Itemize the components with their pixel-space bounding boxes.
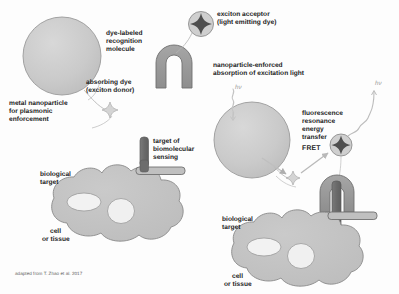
right-metal-nanoparticle xyxy=(214,102,290,178)
label-target-of-sensing: target of biomolecular sensing xyxy=(153,138,205,162)
left-exciton-acceptor-icon xyxy=(189,12,214,37)
right-cell-vacuole xyxy=(247,238,281,256)
figure-credit: adapted from T. Zhao et al. 2017 xyxy=(15,271,155,276)
label-fret-acronym: FRET xyxy=(302,145,321,153)
label-recognition-molecule: dye-labeled recognition molecule xyxy=(106,30,164,54)
label-biological-target-left: biological target xyxy=(40,171,90,187)
left-target-rod-embedded xyxy=(140,160,149,172)
right-cell-nucleus xyxy=(288,244,315,269)
label-fret-expanded: fluorescence resonance energy transfer xyxy=(302,110,350,142)
right-target-slot xyxy=(328,212,377,220)
leader-line-absorbing-dye xyxy=(92,116,112,128)
label-cell-or-tissue-left: cell or tissue xyxy=(42,228,94,244)
label-absorbing-dye: absorbing dye (exciton donor) xyxy=(86,79,156,95)
right-absorbing-dye-star-icon xyxy=(286,171,300,185)
label-biological-target-right: biological target xyxy=(222,216,272,232)
left-cell-nucleus xyxy=(108,199,135,224)
label-absorption-excitation: nanoparticle-enforced absorption of exci… xyxy=(213,62,319,78)
left-cell-vacuole xyxy=(67,193,101,211)
emission-photon-squiggle-icon xyxy=(348,91,377,137)
label-excitation-photon: hν xyxy=(235,84,242,92)
label-exciton-acceptor: exciton acceptor (light emitting dye) xyxy=(217,11,309,27)
left-absorbing-dye-star-icon xyxy=(102,102,118,118)
label-cell-or-tissue-right: cell or tissue xyxy=(224,273,276,289)
label-metal-nanoparticle: metal nanoparticle for plasmonic enforce… xyxy=(9,100,93,124)
label-emission-photon: hν xyxy=(375,80,382,88)
fret-transfer-arrow-icon xyxy=(301,153,328,173)
figure-canvas: metal nanoparticle for plasmonic enforce… xyxy=(0,0,399,294)
